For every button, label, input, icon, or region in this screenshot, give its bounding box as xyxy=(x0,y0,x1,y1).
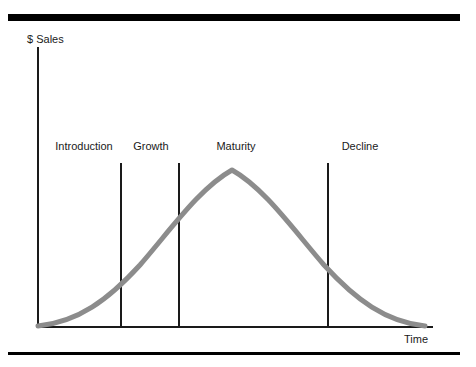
product-life-cycle-figure: $ Sales Time Introduction Growth Maturit… xyxy=(0,0,476,367)
plot-area: $ Sales Time Introduction Growth Maturit… xyxy=(0,0,476,367)
sales-curve-canvas xyxy=(0,0,476,367)
bottom-rule xyxy=(8,352,460,355)
sales-curve-line xyxy=(38,170,425,326)
